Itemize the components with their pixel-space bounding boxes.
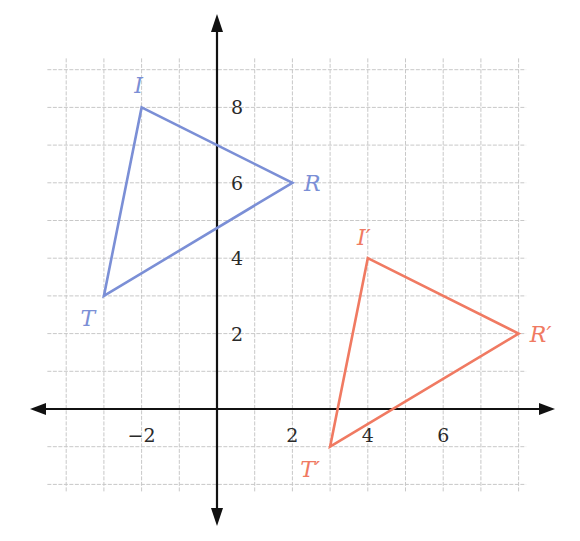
triangles bbox=[104, 107, 519, 446]
vertex-label: I′ bbox=[356, 225, 371, 250]
vertex-label: T′ bbox=[300, 457, 320, 482]
triangle-image bbox=[330, 258, 518, 447]
vertex-label: R′ bbox=[529, 322, 552, 347]
y-axis-down-arrow-icon bbox=[211, 508, 223, 526]
y-tick-label: 6 bbox=[231, 172, 243, 194]
x-tick-label: 6 bbox=[437, 424, 449, 446]
x-tick-label: 2 bbox=[286, 424, 298, 446]
tick-labels: −22462468 bbox=[128, 96, 450, 446]
coordinate-plane: −22462468 IRTI′R′T′ bbox=[0, 0, 580, 541]
coordinate-plane-figure: −22462468 IRTI′R′T′ bbox=[0, 0, 580, 541]
y-tick-label: 2 bbox=[231, 323, 243, 345]
x-tick-label: −2 bbox=[128, 424, 156, 446]
vertex-label: T bbox=[81, 306, 98, 331]
vertex-labels: IRTI′R′T′ bbox=[81, 73, 552, 481]
y-tick-label: 4 bbox=[231, 247, 243, 269]
y-tick-label: 8 bbox=[231, 96, 243, 118]
triangle-original bbox=[104, 107, 293, 296]
vertex-label: R bbox=[303, 171, 321, 196]
vertex-label: I bbox=[133, 73, 144, 98]
x-axis-right-arrow-icon bbox=[539, 403, 555, 415]
x-axis-left-arrow-icon bbox=[30, 403, 46, 415]
y-axis-up-arrow-icon bbox=[211, 14, 223, 32]
